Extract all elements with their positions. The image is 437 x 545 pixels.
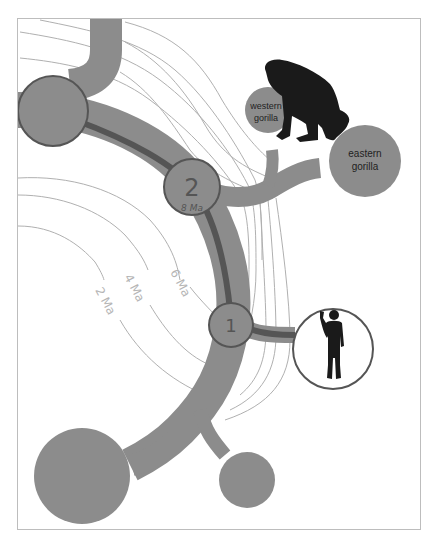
root-node: [18, 76, 88, 146]
eastern-gorilla-label-line1: eastern: [348, 148, 381, 159]
western-gorilla-label-line1: western: [249, 101, 282, 111]
western-gorilla-label-line2: gorilla: [254, 113, 278, 123]
eastern-gorilla-label-line2: gorilla: [352, 161, 379, 172]
node-1-number: 1: [225, 315, 236, 336]
node-2-number: 2: [184, 174, 199, 202]
time-label-2ma: 2 Ma: [92, 285, 118, 317]
taxon-human: [293, 309, 373, 389]
time-label-4ma: 4 Ma: [121, 272, 147, 304]
node-2: 2 8 Ma: [164, 159, 220, 215]
node-1: 1: [209, 303, 253, 347]
time-labels: 6 Ma 4 Ma 2 Ma: [92, 267, 193, 317]
node-2-age: 8 Ma: [181, 203, 203, 213]
phylogeny-diagram: 6 Ma 4 Ma 2 Ma 2: [0, 0, 437, 545]
taxon-eastern-gorilla: eastern gorilla: [329, 125, 401, 197]
bottom-small-circle: [219, 452, 275, 508]
time-label-6ma: 6 Ma: [167, 267, 193, 299]
bottom-large-circle: [34, 428, 130, 524]
